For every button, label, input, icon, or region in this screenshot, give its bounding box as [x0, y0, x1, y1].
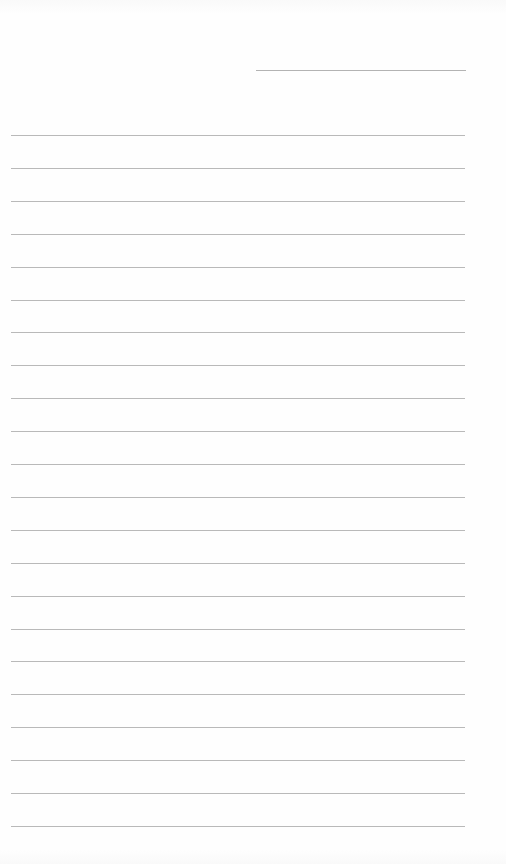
top-edge-shadow — [0, 0, 506, 14]
ruled-line — [11, 332, 465, 333]
ruled-line — [11, 596, 465, 597]
ruled-line — [11, 201, 465, 202]
ruled-line — [11, 694, 465, 695]
ruled-line — [11, 826, 465, 827]
ruled-line — [11, 727, 465, 728]
ruled-line — [11, 398, 465, 399]
ruled-line — [11, 135, 465, 136]
bottom-edge-shadow — [0, 850, 506, 864]
ruled-line — [11, 530, 465, 531]
ruled-line — [11, 300, 465, 301]
ruled-line — [11, 760, 465, 761]
ruled-line — [11, 234, 465, 235]
ruled-line — [11, 497, 465, 498]
ruled-line — [11, 464, 465, 465]
ruled-line — [11, 793, 465, 794]
ruled-line — [11, 431, 465, 432]
lined-page — [0, 0, 506, 864]
ruled-line — [11, 563, 465, 564]
ruled-line — [11, 267, 465, 268]
header-name-line — [256, 70, 466, 71]
ruled-line — [11, 661, 465, 662]
ruled-line — [11, 365, 465, 366]
ruled-line — [11, 629, 465, 630]
ruled-line — [11, 168, 465, 169]
